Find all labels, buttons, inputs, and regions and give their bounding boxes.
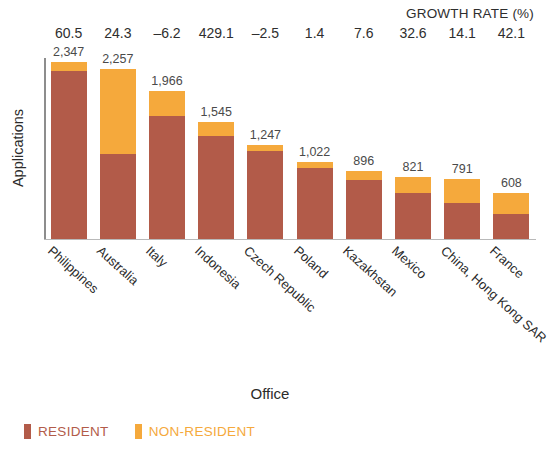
- x-axis-tick-label: Philippines: [45, 243, 102, 296]
- y-axis-title: Applications: [10, 68, 26, 228]
- bar-segment-non-resident[interactable]: [493, 193, 529, 214]
- bar-total-label: 1,545: [201, 105, 232, 119]
- bar-group[interactable]: 1,545: [198, 122, 234, 239]
- x-axis-tick-label: France: [487, 243, 527, 281]
- bar-total-label: 2,257: [102, 52, 133, 66]
- bar-total-label: 896: [353, 154, 374, 168]
- legend-label: NON-RESIDENT: [149, 424, 255, 439]
- legend-label: RESIDENT: [38, 424, 109, 439]
- bar-segment-resident[interactable]: [297, 168, 333, 239]
- growth-rate-value: 32.6: [399, 25, 426, 41]
- bar-total-label: 821: [403, 160, 424, 174]
- x-axis-tick-label: Mexico: [389, 243, 430, 282]
- growth-rate-value: 429.1: [199, 25, 234, 41]
- bar-total-label: 1,247: [250, 128, 281, 142]
- bar-segment-resident[interactable]: [346, 180, 382, 239]
- bar-segment-non-resident[interactable]: [149, 91, 185, 116]
- bar-segment-non-resident[interactable]: [346, 171, 382, 180]
- bar-group[interactable]: 608: [493, 193, 529, 239]
- bar-group[interactable]: 791: [444, 179, 480, 239]
- legend-item[interactable]: RESIDENT: [24, 424, 109, 439]
- growth-rate-value: –2.5: [252, 25, 279, 41]
- bar-segment-resident[interactable]: [51, 71, 87, 239]
- growth-rate-value: 7.6: [354, 25, 373, 41]
- bar-group[interactable]: 1,966: [149, 91, 185, 239]
- bar-segment-resident[interactable]: [198, 136, 234, 239]
- bar-segment-resident[interactable]: [493, 214, 529, 239]
- bar-total-label: 791: [452, 162, 473, 176]
- x-axis-tick-label: Italy: [143, 243, 171, 270]
- chart-legend: RESIDENTNON-RESIDENT: [24, 424, 255, 439]
- bar-segment-resident[interactable]: [395, 193, 431, 239]
- bar-segment-non-resident[interactable]: [395, 177, 431, 192]
- bar-total-label: 1,966: [151, 74, 182, 88]
- bar-segment-non-resident[interactable]: [444, 179, 480, 203]
- x-axis-tick-label: Poland: [291, 243, 331, 281]
- legend-swatch-icon: [24, 424, 31, 439]
- bar-segment-resident[interactable]: [149, 116, 185, 239]
- x-axis-tick-label: Indonesia: [192, 243, 244, 292]
- growth-rate-value: 60.5: [55, 25, 82, 41]
- bar-group[interactable]: 821: [395, 177, 431, 239]
- bar-segment-non-resident[interactable]: [100, 69, 136, 154]
- growth-rate-value: 1.4: [305, 25, 324, 41]
- growth-rate-header-title: GROWTH RATE (%): [406, 6, 534, 21]
- legend-swatch-icon: [135, 424, 142, 439]
- x-axis-line: [44, 239, 536, 240]
- bar-segment-resident[interactable]: [100, 154, 136, 239]
- legend-item[interactable]: NON-RESIDENT: [135, 424, 255, 439]
- bar-group[interactable]: 2,347: [51, 62, 87, 239]
- bar-segment-non-resident[interactable]: [198, 122, 234, 136]
- bar-group[interactable]: 1,247: [247, 145, 283, 239]
- x-axis-tick-labels: PhilippinesAustraliaItalyIndonesiaCzech …: [44, 243, 536, 373]
- growth-rate-row: 60.524.3–6.2429.1–2.51.47.632.614.142.1: [44, 25, 536, 45]
- bar-group[interactable]: 1,022: [297, 162, 333, 239]
- plot-area: 2,3472,2571,9661,5451,2471,0228968217916…: [44, 58, 536, 239]
- growth-rate-value: 14.1: [449, 25, 476, 41]
- x-axis-title: Office: [0, 385, 540, 402]
- bar-segment-resident[interactable]: [444, 203, 480, 239]
- bar-segment-non-resident[interactable]: [51, 62, 87, 71]
- growth-rate-value: 42.1: [498, 25, 525, 41]
- x-axis-tick-label: Australia: [94, 243, 142, 288]
- bar-group[interactable]: 896: [346, 171, 382, 239]
- growth-rate-value: 24.3: [104, 25, 131, 41]
- bar-total-label: 2,347: [53, 45, 84, 59]
- bar-total-label: 608: [501, 176, 522, 190]
- growth-rate-value: –6.2: [153, 25, 180, 41]
- bar-total-label: 1,022: [299, 145, 330, 159]
- bar-segment-resident[interactable]: [247, 151, 283, 239]
- bar-group[interactable]: 2,257: [100, 69, 136, 239]
